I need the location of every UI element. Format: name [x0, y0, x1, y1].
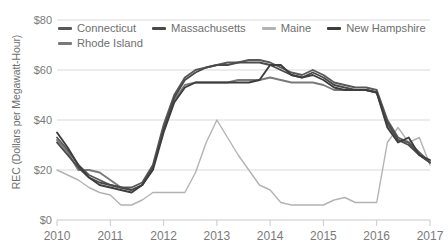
legend-item-massachusetts[interactable]: Massachusetts: [152, 22, 246, 34]
legend-swatch-icon: [262, 27, 276, 30]
x-tick-label: 2016: [352, 230, 402, 242]
x-tick-label: 2010: [32, 230, 82, 242]
legend-swatch-icon: [58, 42, 72, 45]
legend-label: Maine: [281, 22, 311, 34]
legend-item-maine[interactable]: Maine: [262, 22, 311, 34]
x-axis: [57, 220, 430, 226]
series-line-maine: [57, 120, 430, 205]
x-tick-label: 2014: [245, 230, 295, 242]
x-tick-label: 2015: [298, 230, 348, 242]
chart-legend: Connecticut Massachusetts Maine New Hamp…: [58, 22, 430, 50]
legend-label: Rhode Island: [77, 37, 143, 49]
x-tick-label: 2012: [139, 230, 189, 242]
x-tick-label: 2017: [405, 230, 448, 242]
legend-label: New Hampshire: [346, 22, 426, 34]
legend-item-rhode-island[interactable]: Rhode Island: [58, 37, 143, 49]
legend-row-1: Connecticut Massachusetts Maine New Hamp…: [58, 22, 430, 34]
legend-item-connecticut[interactable]: Connecticut: [58, 22, 136, 34]
legend-item-new-hampshire[interactable]: New Hampshire: [327, 22, 426, 34]
series-line-rhode-island: [57, 78, 430, 191]
legend-swatch-icon: [152, 27, 166, 30]
x-tick-label: 2011: [85, 230, 135, 242]
legend-label: Connecticut: [77, 22, 136, 34]
x-tick-label: 2013: [192, 230, 242, 242]
legend-label: Massachusetts: [171, 22, 246, 34]
series-line-new-hampshire: [57, 65, 430, 193]
legend-row-2: Rhode Island: [58, 37, 430, 49]
data-series-group: [57, 60, 430, 205]
legend-swatch-icon: [58, 27, 72, 30]
legend-swatch-icon: [327, 27, 341, 30]
